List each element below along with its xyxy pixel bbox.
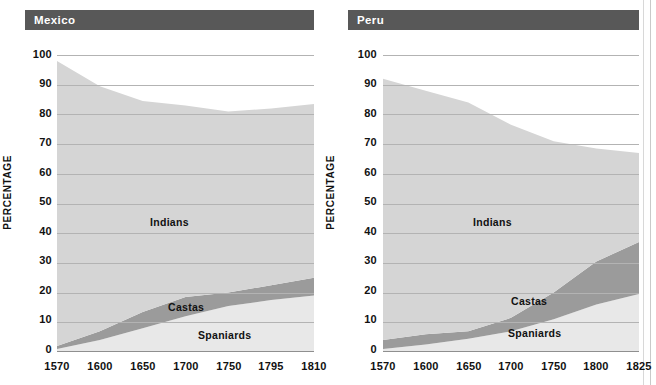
chart-panel-mexico: Mexico PERCENTAGE 100 90 80 70 60 50 40 … xyxy=(0,0,320,385)
band-label-indians-peru: Indians xyxy=(473,216,512,228)
x-tick-mexico-1600: 1600 xyxy=(78,360,122,372)
y-axis-label-peru: PERCENTAGE xyxy=(325,155,336,230)
gridline-peru-80 xyxy=(383,114,639,115)
band-label-castas-peru: Castas xyxy=(511,295,547,307)
gridline-peru-90 xyxy=(383,85,639,86)
x-tick-peru-1570: 1570 xyxy=(361,360,405,372)
y-tick-peru-80: 80 xyxy=(347,107,377,119)
band-label-castas-mexico: Castas xyxy=(168,301,204,313)
gridline-peru-70 xyxy=(383,144,639,145)
band-label-spaniards-peru: Spaniards xyxy=(508,327,561,339)
y-tick-peru-50: 50 xyxy=(347,195,377,207)
y-tick-mexico-70: 70 xyxy=(22,136,52,148)
panel-title-peru: Peru xyxy=(348,10,639,30)
y-tick-peru-20: 20 xyxy=(347,284,377,296)
gridline-mexico-100 xyxy=(57,55,314,56)
gridline-mexico-10 xyxy=(57,322,314,323)
y-tick-peru-10: 10 xyxy=(347,313,377,325)
gridline-mexico-70 xyxy=(57,144,314,145)
gridline-mexico-90 xyxy=(57,85,314,86)
x-tick-peru-1825: 1825 xyxy=(617,360,656,372)
page-right-rule-outer xyxy=(650,0,651,385)
band-label-spaniards-mexico: Spaniards xyxy=(198,329,251,341)
plot-area-peru xyxy=(383,55,639,352)
y-tick-mexico-90: 90 xyxy=(22,77,52,89)
x-tick-mexico-1650: 1650 xyxy=(121,360,165,372)
gridline-peru-50 xyxy=(383,204,639,205)
x-tick-mexico-1700: 1700 xyxy=(164,360,208,372)
gridline-peru-20 xyxy=(383,293,639,294)
y-tick-mexico-20: 20 xyxy=(22,284,52,296)
chart-panel-peru: Peru PERCENTAGE 100 90 80 70 60 50 40 30… xyxy=(325,0,645,385)
gridline-peru-30 xyxy=(383,263,639,264)
y-tick-peru-40: 40 xyxy=(347,225,377,237)
y-tick-mexico-60: 60 xyxy=(22,166,52,178)
y-tick-mexico-30: 30 xyxy=(22,254,52,266)
axis-line-peru-0 xyxy=(383,351,639,352)
band-label-indians-mexico: Indians xyxy=(150,216,189,228)
y-tick-peru-60: 60 xyxy=(347,166,377,178)
y-tick-peru-0: 0 xyxy=(347,343,377,355)
gridline-mexico-20 xyxy=(57,293,314,294)
y-tick-peru-70: 70 xyxy=(347,136,377,148)
x-tick-peru-1700: 1700 xyxy=(489,360,533,372)
x-tick-peru-1800: 1800 xyxy=(574,360,618,372)
x-tick-mexico-1795: 1795 xyxy=(249,360,293,372)
y-axis-label-mexico: PERCENTAGE xyxy=(2,155,13,230)
gridline-peru-100 xyxy=(383,55,639,56)
y-tick-mexico-40: 40 xyxy=(22,225,52,237)
gridline-mexico-80 xyxy=(57,114,314,115)
y-tick-mexico-80: 80 xyxy=(22,107,52,119)
y-tick-mexico-0: 0 xyxy=(22,343,52,355)
gridline-peru-10 xyxy=(383,322,639,323)
gridline-mexico-40 xyxy=(57,233,314,234)
panel-title-mexico: Mexico xyxy=(25,10,314,30)
gridline-peru-40 xyxy=(383,233,639,234)
x-tick-peru-1750: 1750 xyxy=(532,360,576,372)
axis-line-mexico-0 xyxy=(57,351,314,352)
x-tick-peru-1650: 1650 xyxy=(447,360,491,372)
x-tick-peru-1600: 1600 xyxy=(404,360,448,372)
y-tick-mexico-100: 100 xyxy=(22,48,52,60)
y-tick-peru-30: 30 xyxy=(347,254,377,266)
x-tick-mexico-1750: 1750 xyxy=(207,360,251,372)
y-tick-mexico-10: 10 xyxy=(22,313,52,325)
gridline-peru-60 xyxy=(383,174,639,175)
y-tick-mexico-50: 50 xyxy=(22,195,52,207)
gridline-mexico-60 xyxy=(57,174,314,175)
y-tick-peru-90: 90 xyxy=(347,77,377,89)
gridline-mexico-30 xyxy=(57,263,314,264)
gridline-mexico-50 xyxy=(57,204,314,205)
x-tick-mexico-1570: 1570 xyxy=(35,360,79,372)
y-tick-peru-100: 100 xyxy=(347,48,377,60)
